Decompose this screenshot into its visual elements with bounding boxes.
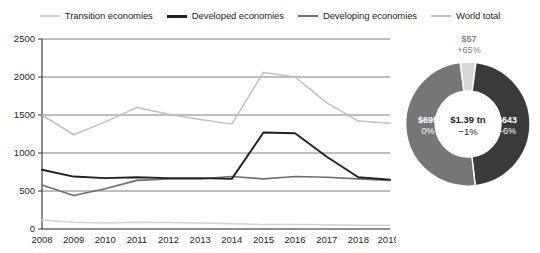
legend-label-world-total: World total (456, 11, 500, 21)
donut-label-developed-change: −6% (498, 126, 516, 136)
line-chart-canvas: 0500100015002000250020082009201020112012… (0, 26, 396, 253)
legend-item-world-total: World total (431, 11, 500, 21)
chart-figure: Transition economies Developed economies… (0, 0, 540, 253)
donut-center-change: −1% (458, 126, 478, 137)
x-axis-tick-label: 2017 (316, 234, 337, 245)
x-axis-tick-label: 2010 (95, 234, 116, 245)
legend-swatch-transition-economies (40, 15, 60, 17)
legend-swatch-developing-economies (298, 15, 318, 17)
donut-center-value: $1.39 tn (450, 114, 486, 125)
x-axis-tick-label: 2009 (63, 234, 84, 245)
legend-label-transition-economies: Transition economies (65, 11, 153, 21)
x-axis-tick-label: 2013 (190, 234, 211, 245)
legend-item-transition-economies: Transition economies (40, 11, 153, 21)
donut-label-developing-change: 0% (421, 126, 434, 136)
x-axis-tick-label: 2012 (158, 234, 179, 245)
donut-chart-canvas: $1.39 tn−1%$57+65%$643−6%$6950% (396, 26, 540, 253)
donut-label-developed-value: $643 (497, 115, 517, 125)
x-axis-tick-label: 2014 (221, 234, 242, 245)
line-chart: 0500100015002000250020082009201020112012… (0, 26, 396, 253)
legend-label-developing-economies: Developing economies (323, 11, 417, 21)
legend-item-developing-economies: Developing economies (298, 11, 417, 21)
y-axis-tick-label: 2000 (14, 71, 35, 82)
y-axis-tick-label: 2500 (14, 33, 35, 44)
line-series (42, 220, 390, 225)
y-axis-tick-label: 1000 (14, 147, 35, 158)
legend-label-developed-economies: Developed economies (192, 11, 284, 21)
y-axis-tick-label: 500 (19, 185, 35, 196)
donut-label-developing-value: $695 (418, 115, 438, 125)
x-axis-tick-label: 2016 (285, 234, 306, 245)
donut-label-transition-value: $57 (461, 34, 476, 44)
x-axis-tick-label: 2018 (348, 234, 369, 245)
y-axis-tick-label: 0 (30, 223, 35, 234)
x-axis-tick-label: 2008 (31, 234, 52, 245)
donut-chart: $1.39 tn−1%$57+65%$643−6%$6950% (396, 26, 540, 253)
legend-swatch-developed-economies (167, 15, 187, 18)
line-series (42, 132, 390, 179)
legend-item-developed-economies: Developed economies (167, 11, 284, 21)
x-axis-tick-label: 2019* (378, 234, 396, 245)
chart-legend: Transition economies Developed economies… (0, 8, 540, 24)
legend-swatch-world-total (431, 15, 451, 17)
x-axis-tick-label: 2015 (253, 234, 274, 245)
x-axis-tick-label: 2011 (127, 234, 147, 245)
y-axis-tick-label: 1500 (14, 109, 35, 120)
line-series (42, 72, 390, 134)
donut-label-transition-change: +65% (457, 45, 480, 55)
